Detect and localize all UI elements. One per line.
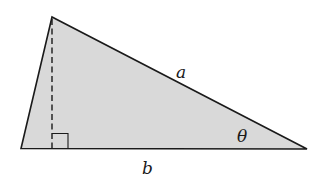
- angle-theta-label: θ: [237, 126, 247, 146]
- side-b-label: b: [142, 158, 153, 178]
- triangle-diagram: a θ b: [0, 0, 322, 185]
- side-a-label: a: [176, 62, 186, 82]
- triangle: [21, 17, 307, 149]
